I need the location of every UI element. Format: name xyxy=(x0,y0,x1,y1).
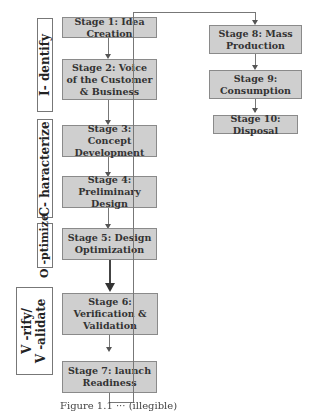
stage-1-box: Stage 1: Idea Creation xyxy=(62,17,157,38)
stage-9-label: Stage 9: Consumption xyxy=(213,73,298,97)
stage-3-box: Stage 3: Concept Development xyxy=(62,125,157,157)
stage-10-label: Stage 10: Disposal xyxy=(217,113,294,137)
stage-10-box: Stage 10: Disposal xyxy=(213,115,298,134)
stage-3-label: Stage 3: Concept Development xyxy=(66,123,153,159)
stage-9-box: Stage 9: Consumption xyxy=(209,70,302,99)
stage-8-box: Stage 8: Mass Production xyxy=(209,25,302,54)
stage-4-box: Stage 4: Preliminary Design xyxy=(62,176,157,208)
stage-7-label: Stage 7: launch Readiness xyxy=(66,365,153,389)
stage-5-label: Stage 5: Design Optimization xyxy=(66,232,153,256)
stage-2-box: Stage 2: Voice of the Customer & Busines… xyxy=(62,59,157,100)
phase-optimize-label: O -ptimize xyxy=(38,214,52,278)
connector-7-8-up xyxy=(133,12,134,403)
phase-optimize: O -ptimize xyxy=(37,223,53,268)
arrow-down-icon xyxy=(105,283,115,292)
phase-validate-label: V -alidate xyxy=(35,299,49,364)
stage-2-label: Stage 2: Voice of the Customer & Busines… xyxy=(66,62,153,98)
arrow-down-icon xyxy=(106,347,112,352)
phase-characterize: C- haracterize xyxy=(37,119,53,218)
phase-identify: I- dentify xyxy=(37,18,53,112)
phase-verify-validate-text: V -rify/ V -alidate xyxy=(21,299,49,364)
phase-identify-label: I- dentify xyxy=(38,34,52,96)
connector-7-8-top xyxy=(133,12,256,13)
phase-characterize-label: C- haracterize xyxy=(38,121,52,216)
stage-6-label: Stage 6: Verification & Validation xyxy=(66,296,154,332)
phase-verify-label: V -rify/ xyxy=(21,299,35,364)
stage-4-label: Stage 4: Preliminary Design xyxy=(66,174,153,210)
figure-caption: Figure 1.1 ··· (illegible) xyxy=(60,400,177,411)
stage-6-box: Stage 6: Verification & Validation xyxy=(62,293,158,335)
stage-5-box: Stage 5: Design Optimization xyxy=(62,228,157,260)
stage-7-box: Stage 7: launch Readiness xyxy=(62,361,157,393)
phase-verify-validate: V -rify/ V -alidate xyxy=(16,287,53,375)
stage-1-label: Stage 1: Idea Creation xyxy=(66,16,153,40)
stage-8-label: Stage 8: Mass Production xyxy=(213,28,298,52)
